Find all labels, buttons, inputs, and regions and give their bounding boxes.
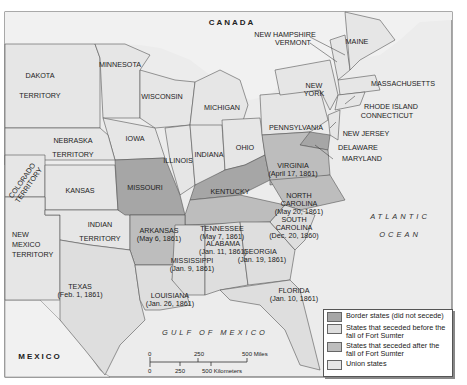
label-dakota-territory: TERRITORY xyxy=(19,91,60,100)
legend-label-border: Border states (did not secede) xyxy=(346,312,444,320)
label-virginia-date: (April 17, 1861) xyxy=(268,169,317,178)
label-ohio: OHIO xyxy=(236,143,255,152)
label-connecticut: CONNECTICUT xyxy=(361,111,414,120)
label-iowa: IOWA xyxy=(126,134,145,143)
label-new-mexico-territory: TERRITORY xyxy=(12,250,53,259)
legend-swatch-border xyxy=(327,312,342,322)
label-michigan: MICHIGAN xyxy=(204,103,240,112)
scale-miles-500: 500 Miles xyxy=(242,351,268,357)
label-new-jersey: NEW JERSEY xyxy=(343,129,390,138)
label-new-mexico-1: NEW xyxy=(12,230,29,239)
label-kentucky: KENTUCKY xyxy=(210,187,249,196)
label-nebraska-territory: TERRITORY xyxy=(52,150,93,159)
map-legend: Border states (did not secede) States th… xyxy=(323,309,453,377)
label-georgia-date: (Jan. 19, 1861) xyxy=(238,255,286,264)
label-rhode-island: RHODE ISLAND xyxy=(364,102,418,111)
state-dakota-territory xyxy=(5,44,100,128)
legend-swatch-after xyxy=(327,342,342,352)
label-gulf-of-mexico: GULF OF MEXICO xyxy=(162,328,268,337)
label-maryland: MARYLAND xyxy=(342,154,382,163)
legend-item-seceded-after: States that seceded after the fall of Fo… xyxy=(327,342,449,358)
label-indian: INDIAN xyxy=(88,220,112,229)
label-ocean: OCEAN xyxy=(379,230,421,239)
label-atlantic: ATLANTIC xyxy=(369,212,430,221)
legend-label-union: Union states xyxy=(346,360,387,368)
label-nebraska: NEBRASKA xyxy=(53,136,92,145)
legend-swatch-union xyxy=(327,360,342,370)
scale-km-500: 500 Kilometers xyxy=(202,368,242,374)
label-york: YORK xyxy=(304,89,325,98)
label-maine: MAINE xyxy=(346,37,369,46)
legend-label-before: States that seceded before the fall of F… xyxy=(346,324,449,340)
label-illinois: ILLINOIS xyxy=(163,156,193,165)
scale-km-250: 250 xyxy=(175,368,186,374)
label-delaware: DELAWARE xyxy=(338,143,378,152)
label-arkansas-date: (May 6, 1861) xyxy=(137,234,181,243)
label-indiana: INDIANA xyxy=(194,150,223,159)
label-pennsylvania: PENNSYLVANIA xyxy=(269,123,323,132)
legend-label-after: States that seceded after the fall of Fo… xyxy=(346,342,449,358)
label-louisiana-date: (Jan. 26, 1861) xyxy=(146,299,194,308)
label-massachusetts: MASSACHUSETTS xyxy=(371,79,435,88)
label-mississippi-date: (Jan. 9, 1861) xyxy=(170,264,214,273)
scale-miles-250: 250 xyxy=(194,351,205,357)
label-dakota: DAKOTA xyxy=(25,71,54,80)
label-vermont: VERMONT xyxy=(275,38,312,47)
label-kansas: KANSAS xyxy=(65,186,94,195)
label-florida-date: (Jan. 10, 1861) xyxy=(270,294,318,303)
legend-item-seceded-before: States that seceded before the fall of F… xyxy=(327,324,449,340)
label-texas-date: (Feb. 1, 1861) xyxy=(57,290,102,299)
label-wisconsin: WISCONSIN xyxy=(141,92,183,101)
label-new-mexico-2: MEXICO xyxy=(12,240,41,249)
label-indian-territory: TERRITORY xyxy=(79,234,120,243)
label-mexico: MEXICO xyxy=(18,352,62,361)
label-minnesota: MINNESOTA xyxy=(99,60,141,69)
legend-item-union: Union states xyxy=(327,360,449,370)
legend-swatch-before xyxy=(327,324,342,334)
label-missouri: MISSOURI xyxy=(127,183,163,192)
label-south-carolina-date: (Dec. 20, 1860) xyxy=(269,231,319,240)
legend-item-border-states: Border states (did not secede) xyxy=(327,312,449,322)
label-canada: CANADA xyxy=(209,18,256,27)
